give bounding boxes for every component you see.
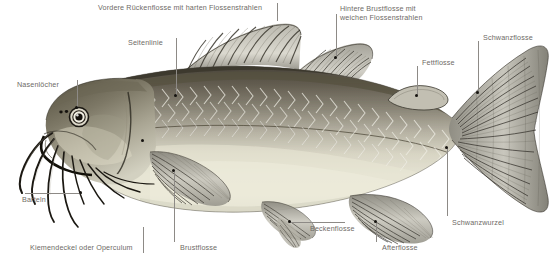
leader-line-seitenlinie — [176, 38, 177, 95]
anchor-dot-schwanzflosse — [476, 91, 479, 94]
leader-line-kiemendeckel — [143, 227, 144, 253]
anchor-dot-nasenloecher — [75, 106, 78, 109]
anchor-dot-fettflosse — [415, 94, 418, 97]
label-barteln: Barteln — [22, 195, 46, 204]
leader-line-schwanzwurzel — [447, 148, 448, 216]
label-seitenlinie: Seitenlinie — [128, 38, 163, 47]
leader-line-beckenflosse — [290, 222, 345, 223]
anchor-dot-brustflosse — [172, 169, 175, 172]
label-schwanzflosse: Schwanzflosse — [483, 33, 533, 42]
dorsal-fin-spiny — [183, 24, 301, 73]
fish-anatomy-diagram: Vordere Rückenflosse mit harten Flossens… — [0, 0, 557, 262]
label-fettflosse: Fettflosse — [422, 58, 455, 67]
anchor-dot-beckenflosse — [288, 220, 291, 223]
leader-line-schwanzflosse — [478, 41, 479, 92]
anchor-dot-hintere-brustflosse — [334, 56, 337, 59]
fish-eye — [70, 108, 89, 127]
anal-fin — [349, 195, 433, 244]
anchor-dot-kiemendeckel — [141, 139, 144, 142]
anchor-dot-barteln — [79, 191, 82, 194]
label-afterflosse: Afterflosse — [382, 243, 418, 252]
label-nasenloecher: Nasenlöcher — [17, 80, 59, 89]
leader-line-nasenloecher — [77, 80, 78, 107]
leader-line-barteln — [25, 193, 82, 194]
leader-line-afterflosse — [376, 222, 377, 242]
caudal-fin — [449, 46, 548, 212]
label-beckenflosse: Beckenflosse — [310, 224, 355, 233]
label-schwanzwurzel: Schwanzwurzel — [452, 218, 504, 227]
label-hintere-brustflosse: Hintere Brustflosse mit weichen Flossens… — [340, 4, 423, 22]
label-brustflosse: Brustflosse — [180, 243, 217, 252]
leader-line-brustflosse — [174, 172, 175, 242]
leader-line-fettflosse — [417, 66, 418, 95]
anchor-dot-schwanzwurzel — [445, 146, 448, 149]
leader-line-vordere-rueckenflosse — [277, 3, 278, 21]
label-kiemendeckel: Kiemendeckel oder Operculum — [30, 243, 133, 252]
anchor-dot-afterflosse — [374, 220, 377, 223]
label-vordere-rueckenflosse: Vordere Rückenflosse mit harten Flossens… — [98, 3, 262, 12]
leader-line-hintere-brustflosse — [336, 14, 337, 57]
anchor-dot-seitenlinie — [174, 94, 177, 97]
